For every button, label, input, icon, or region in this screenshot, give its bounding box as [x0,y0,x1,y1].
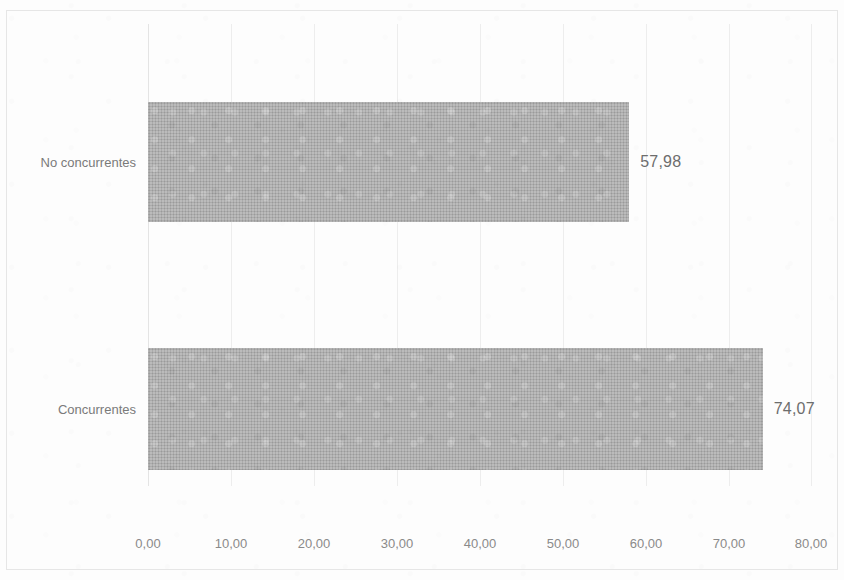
bar-concurrentes[interactable] [148,348,763,470]
bar-row-concurrentes: 74,07 [148,348,815,470]
bar-value-label-no-concurrentes: 57,98 [640,153,681,171]
x-tick-label-40: 40,00 [464,536,497,551]
x-tick-label-50: 50,00 [547,536,580,551]
bar-no-concurrentes[interactable] [148,102,629,222]
category-label-concurrentes: Concurrentes [58,402,136,417]
x-tick-label-30: 30,00 [381,536,414,551]
x-tick-label-20: 20,00 [298,536,331,551]
value-axis: 0,00 10,00 20,00 30,00 40,00 50,00 60,00… [148,536,812,560]
x-tick-label-0: 0,00 [135,536,160,551]
x-tick-label-60: 60,00 [630,536,663,551]
plot-area: 57,98 74,07 [148,24,812,486]
x-tick-label-70: 70,00 [713,536,746,551]
bar-row-no-concurrentes: 57,98 [148,102,681,222]
x-tick-label-80: 80,00 [795,536,828,551]
x-tick-label-10: 10,00 [215,536,248,551]
category-axis: No concurrentes Concurrentes [0,24,148,486]
category-label-no-concurrentes: No concurrentes [41,155,136,170]
bar-value-label-concurrentes: 74,07 [774,400,815,418]
bar-chart: 57,98 74,07 No concurrentes Concurrentes… [0,0,844,580]
